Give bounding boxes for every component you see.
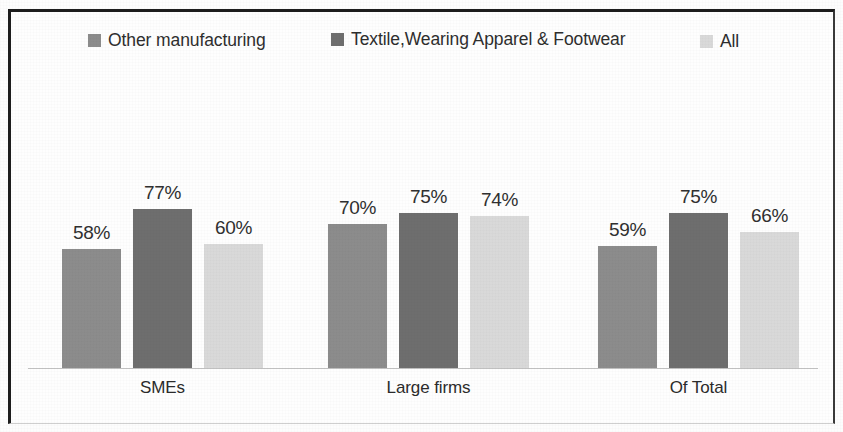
plot-area: 58%77%60%SMEs70%75%74%Large firms59%75%6… (0, 0, 843, 432)
category-label: Large firms (308, 378, 549, 398)
bar-value-label: 60% (196, 217, 271, 239)
bar-value-label: 74% (462, 189, 537, 211)
category-axis-baseline (28, 368, 818, 369)
bar (669, 213, 728, 368)
bar-chart-figure: Other manufacturing Textile,Wearing Appa… (0, 0, 843, 432)
bar (399, 213, 458, 368)
bar (133, 209, 192, 368)
bar (740, 232, 799, 368)
bar-value-label: 77% (125, 182, 200, 204)
bar-value-label: 59% (590, 219, 665, 241)
bar (204, 244, 263, 368)
bar-value-label: 66% (732, 205, 807, 227)
bar-value-label: 75% (391, 186, 466, 208)
bar (470, 216, 529, 368)
bar-value-label: 58% (54, 222, 129, 244)
bar (62, 249, 121, 368)
bar (328, 224, 387, 368)
category-label: Of Total (578, 378, 819, 398)
bar (598, 246, 657, 368)
bar-value-label: 70% (320, 197, 395, 219)
category-label: SMEs (42, 378, 283, 398)
bar-value-label: 75% (661, 186, 736, 208)
